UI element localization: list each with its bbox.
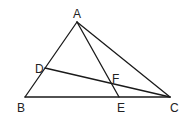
geometry-diagram: A B C D E F bbox=[0, 0, 192, 122]
label-b: B bbox=[17, 101, 25, 115]
label-d: D bbox=[35, 62, 44, 76]
label-a: A bbox=[73, 7, 81, 21]
label-e: E bbox=[117, 101, 125, 115]
label-c: C bbox=[170, 101, 179, 115]
label-f: F bbox=[112, 72, 119, 86]
segment-ab bbox=[25, 22, 77, 97]
